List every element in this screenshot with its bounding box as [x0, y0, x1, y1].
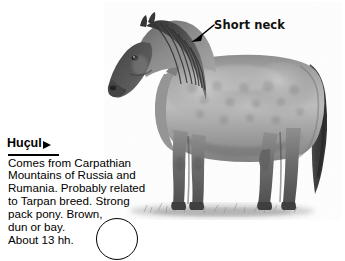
breed-title: Huçul: [7, 136, 159, 151]
short-neck-label: Short neck: [214, 18, 285, 32]
circle-outline: [96, 218, 138, 260]
short-neck-callout: Short neck: [186, 14, 306, 46]
breed-title-text: Huçul: [7, 136, 42, 151]
page-root: Short neck Huçul Comes from Carpathian M…: [0, 0, 345, 261]
right-triangle-icon: [43, 141, 51, 149]
